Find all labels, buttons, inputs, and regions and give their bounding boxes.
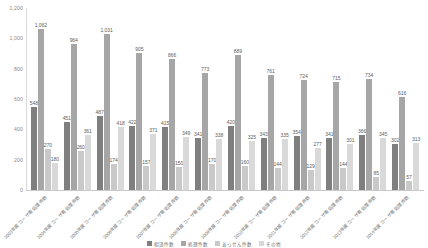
bar-column[interactable]: 338 [216,8,222,190]
bar-3[interactable] [282,139,288,190]
bar-group: 420889160325 [225,8,258,190]
legend-item[interactable]: その他 [259,241,281,247]
bar-column[interactable]: 734 [366,8,372,190]
bar-column[interactable]: 366 [359,8,365,190]
bar-1[interactable] [71,44,77,190]
bar-column[interactable]: 616 [399,8,405,190]
bar-1[interactable] [399,97,405,190]
bar-0[interactable] [294,136,300,190]
bar-column[interactable]: 325 [249,8,255,190]
bar-column[interactable]: 57 [406,8,412,190]
bar-column[interactable]: 335 [282,8,288,190]
bar-2[interactable] [242,166,248,190]
bar-2[interactable] [373,177,379,190]
bar-column[interactable]: 487 [97,8,103,190]
bar-column[interactable]: 422 [129,8,135,190]
bar-0[interactable] [97,116,103,190]
bar-column[interactable]: 144 [340,8,346,190]
bar-column[interactable]: 415 [162,8,168,190]
bar-2[interactable] [275,168,281,190]
bar-3[interactable] [118,127,124,190]
bar-column[interactable]: 180 [52,8,58,190]
legend-item[interactable]: あっせん件数 [215,241,252,247]
bar-group: 30261657313 [389,8,422,190]
bar-column[interactable]: 170 [209,8,215,190]
bar-1[interactable] [333,82,339,190]
bar-1[interactable] [169,59,175,190]
bar-3[interactable] [150,134,156,190]
bar-1[interactable] [268,75,274,190]
legend-label: 相談件数 [154,241,174,247]
bar-column[interactable]: 548 [31,8,37,190]
bar-0[interactable] [261,138,267,190]
bar-column[interactable]: 313 [413,8,419,190]
bar-column[interactable]: 354 [294,8,300,190]
bar-2[interactable] [340,168,346,190]
legend-item[interactable]: 相談件数 [147,241,174,247]
bar-3[interactable] [249,141,255,190]
bar-2[interactable] [209,164,215,190]
bar-column[interactable]: 349 [183,8,189,190]
bar-value-label: 174 [109,157,117,163]
bar-column[interactable]: 85 [373,8,379,190]
bar-3[interactable] [183,137,189,190]
bar-0[interactable] [162,127,168,190]
bar-1[interactable] [136,53,142,190]
bar-2[interactable] [111,164,117,190]
bar-column[interactable]: 150 [176,8,182,190]
bar-column[interactable]: 341 [195,8,201,190]
bar-0[interactable] [392,144,398,190]
bar-3[interactable] [85,135,91,190]
bar-3[interactable] [347,144,353,190]
bar-0[interactable] [228,126,234,190]
bar-1[interactable] [366,79,372,190]
bar-3[interactable] [52,163,58,190]
bar-2[interactable] [406,181,412,190]
bar-0[interactable] [64,122,70,190]
bar-column[interactable]: 157 [143,8,149,190]
bar-column[interactable]: 277 [315,8,321,190]
bar-1[interactable] [104,34,110,190]
bar-2[interactable] [78,151,84,190]
bar-1[interactable] [301,80,307,190]
bar-2[interactable] [176,167,182,190]
bar-column[interactable]: 451 [64,8,70,190]
bar-column[interactable]: 1,031 [104,8,110,190]
bar-column[interactable]: 341 [326,8,332,190]
bar-1[interactable] [202,73,208,190]
bar-3[interactable] [380,138,386,190]
bar-0[interactable] [326,138,332,190]
bar-column[interactable]: 371 [150,8,156,190]
bar-1[interactable] [38,29,44,190]
bar-0[interactable] [129,126,135,190]
bar-value-label: 302 [391,137,399,143]
bar-column[interactable]: 343 [261,8,267,190]
bar-0[interactable] [195,138,201,190]
bar-column[interactable]: 361 [85,8,91,190]
bar-column[interactable]: 260 [78,8,84,190]
bar-value-label: 715 [332,75,340,81]
bar-0[interactable] [31,107,37,190]
bar-column[interactable]: 302 [392,8,398,190]
bar-column[interactable]: 144 [275,8,281,190]
bar-column[interactable]: 174 [111,8,117,190]
bar-column[interactable]: 129 [308,8,314,190]
bar-0[interactable] [359,135,365,191]
bar-1[interactable] [235,55,241,190]
bar-column[interactable]: 964 [71,8,77,190]
bar-3[interactable] [216,139,222,190]
bar-column[interactable]: 420 [228,8,234,190]
bar-column[interactable]: 270 [45,8,51,190]
bar-column[interactable]: 345 [380,8,386,190]
bar-column[interactable]: 418 [118,8,124,190]
bar-3[interactable] [413,143,419,190]
bar-2[interactable] [143,166,149,190]
bar-2[interactable] [308,170,314,190]
bar-column[interactable]: 1,062 [38,8,44,190]
bar-3[interactable] [315,148,321,190]
bar-value-label: 964 [70,37,78,43]
bar-value-label: 343 [260,131,268,137]
bar-column[interactable]: 160 [242,8,248,190]
bar-column[interactable]: 301 [347,8,353,190]
legend-item[interactable]: 処理件数 [181,241,208,247]
